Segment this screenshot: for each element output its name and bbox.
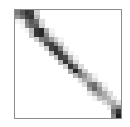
heatmap-plot-area bbox=[14, 9, 122, 119]
heatmap-cell bbox=[116, 114, 122, 119]
